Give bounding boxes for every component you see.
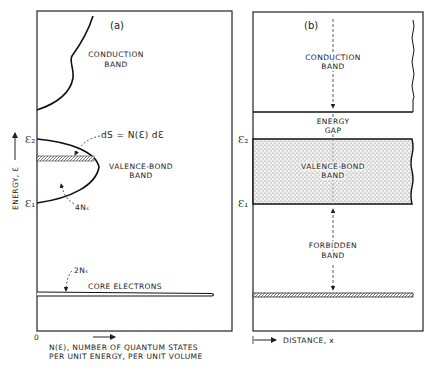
conduction-band-wavy-edge xyxy=(412,20,414,112)
b-conduction-label-2: BAND xyxy=(321,62,344,71)
valence-band-curve xyxy=(37,139,99,203)
2ns-leader-arrow xyxy=(66,271,72,291)
panel-a: (a) CONDUCTION BAND dS = N(Ɛ) dƐ VALENCE… xyxy=(11,11,232,361)
origin-label: 0 xyxy=(34,333,39,342)
a-conduction-label-2: BAND xyxy=(104,60,127,69)
a-e1-label: Ɛ₁ xyxy=(25,198,35,209)
a-valence-label-2: BAND xyxy=(129,171,152,180)
ds-hatched-strip xyxy=(37,156,94,161)
energy-gap-label-2: GAP xyxy=(325,126,342,135)
forbidden-label-2: BAND xyxy=(321,251,344,260)
panel-b-tag: (b) xyxy=(304,20,318,31)
conduction-band-curve xyxy=(37,16,93,110)
b-valence-label-2: BAND xyxy=(321,171,344,180)
2ns-label: 2Nₛ xyxy=(74,266,88,275)
panel-a-tag: (a) xyxy=(110,20,124,31)
a-conduction-label-1: CONDUCTION xyxy=(88,50,144,59)
panel-b: (b) CONDUCTION BAND ENERGY GAP VALENCE-B… xyxy=(238,12,423,345)
band-diagram: (a) CONDUCTION BAND dS = N(Ɛ) dƐ VALENCE… xyxy=(0,0,434,369)
energy-gap-label-1: ENERGY xyxy=(317,117,350,126)
forbidden-label-1: FORBIDDEN xyxy=(309,241,357,250)
a-valence-label-1: VALENCE-BOND xyxy=(109,162,173,171)
core-band-strip xyxy=(253,293,413,297)
a-e2-label: Ɛ₂ xyxy=(25,134,35,145)
b-conduction-label-1: CONDUCTION xyxy=(305,53,361,62)
distance-axis-label: DISTANCE, x xyxy=(283,336,334,345)
core-electrons-band xyxy=(37,292,214,296)
core-electrons-label: CORE ELECTRONS xyxy=(88,282,162,291)
x-axis-label-2: PER UNIT ENERGY, PER UNIT VOLUME xyxy=(49,352,203,361)
b-valence-label-1: VALENCE-BOND xyxy=(301,162,365,171)
b-e2-label: Ɛ₂ xyxy=(238,134,248,145)
b-e1-label: Ɛ₁ xyxy=(238,198,248,209)
energy-axis-label: ENERGY, Ɛ xyxy=(11,167,20,210)
4ns-label: 4Nₛ xyxy=(75,203,89,212)
ds-equation-label: dS = N(Ɛ) dƐ xyxy=(101,130,164,140)
x-axis-label-1: N(Ɛ), NUMBER OF QUANTUM STATES xyxy=(49,343,198,352)
